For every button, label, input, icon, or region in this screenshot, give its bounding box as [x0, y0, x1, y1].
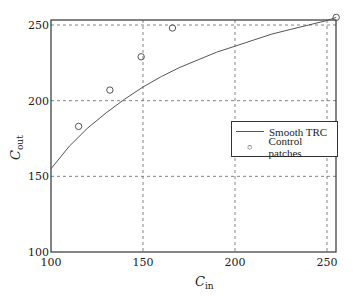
- svg-text:250: 250: [317, 256, 338, 269]
- svg-text:100: 100: [28, 246, 49, 259]
- legend-item-control-patches: ○ Control patches: [232, 139, 337, 154]
- x-axis-label: Cin: [195, 274, 214, 291]
- control-patch-point: [169, 25, 175, 31]
- svg-text:200: 200: [28, 95, 49, 108]
- y-axis-label: Cout: [8, 135, 25, 160]
- svg-text:250: 250: [28, 19, 49, 32]
- svg-text:150: 150: [133, 256, 154, 269]
- legend-label: Control patches: [269, 135, 337, 159]
- circle-marker-icon: ○: [236, 142, 264, 152]
- control-patch-point: [107, 87, 113, 93]
- svg-text:150: 150: [28, 170, 49, 183]
- line-swatch-icon: [236, 131, 264, 132]
- control-patch-markers: [75, 14, 339, 129]
- svg-text:200: 200: [225, 256, 246, 269]
- legend: Smooth TRC ○ Control patches: [231, 121, 338, 157]
- y-axis-label-group: Cout: [8, 135, 25, 160]
- control-patch-point: [75, 123, 81, 129]
